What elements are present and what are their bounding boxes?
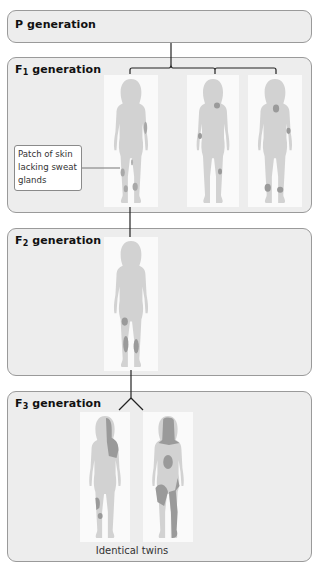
title-suffix: generation [28,234,101,247]
identical-twins-caption: Identical twins [70,545,194,556]
p-generation-title: P generation [15,18,96,31]
title-suffix: generation [28,397,101,410]
title-suffix: generation [28,63,101,76]
title-prefix: F [15,63,23,76]
title-prefix: F [15,234,23,247]
p-generation-panel: P generation [7,10,312,43]
f2-generation-panel: F2 generation [7,228,312,376]
f1-generation-title: F1 generation [15,63,101,77]
f1-figure-2 [187,75,239,207]
f2-figure [104,237,158,371]
female-silhouette-icon [187,75,239,207]
f2-generation-title: F2 generation [15,234,101,248]
f1-figure-3 [248,75,302,207]
f3-twin-1 [80,412,130,542]
female-silhouette-icon [80,412,130,542]
female-silhouette-icon [104,237,158,371]
f3-twin-2 [143,412,193,542]
f1-figure-1 [104,75,158,207]
female-silhouette-icon [248,75,302,207]
f3-generation-title: F3 generation [15,397,101,411]
female-silhouette-icon [143,412,193,542]
callout-label: Patch of skin lacking sweat glands [14,145,82,191]
female-silhouette-icon [104,75,158,207]
title-prefix: F [15,397,23,410]
